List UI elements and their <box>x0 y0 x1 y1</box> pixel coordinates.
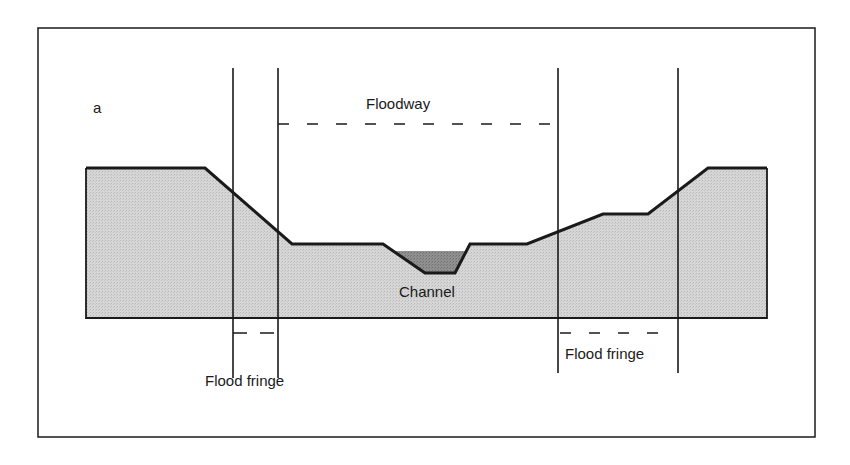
floodplain-cross-section-diagram: a Floodway Channel Flood fringe Flood fr… <box>0 0 850 465</box>
floodway-label: Floodway <box>366 95 431 112</box>
channel-label: Channel <box>399 283 455 300</box>
right-flood-fringe-label: Flood fringe <box>565 345 644 362</box>
panel-label: a <box>93 99 102 116</box>
left-flood-fringe-label: Flood fringe <box>205 372 284 389</box>
